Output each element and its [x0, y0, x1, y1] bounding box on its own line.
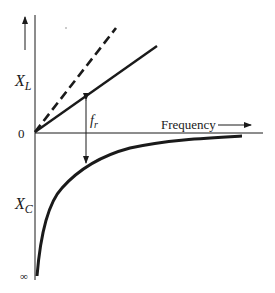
infinity-label: ∞	[20, 270, 28, 282]
fr-label: fr	[90, 113, 98, 130]
xl-dashed-line	[35, 28, 116, 132]
speck	[65, 27, 67, 29]
zero-label: 0	[18, 126, 25, 141]
reactance-diagram: XL XC 0 ∞ Frequency fr	[0, 0, 275, 293]
xc-label: XC	[14, 195, 34, 216]
xc-curve	[37, 136, 242, 276]
frequency-label: Frequency	[161, 117, 216, 132]
xl-label: XL	[14, 72, 32, 93]
